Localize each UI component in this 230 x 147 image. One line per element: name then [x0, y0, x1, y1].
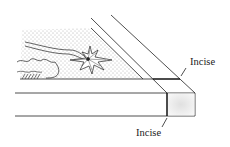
- painted-landscape: [17, 28, 143, 79]
- frame-end-face: [168, 94, 195, 116]
- diagram-drawing: [0, 0, 230, 147]
- incise-label-top: Incise: [190, 56, 215, 67]
- incise-label-bottom: Incise: [136, 127, 161, 138]
- frame-corner-diagram: Incise Incise: [0, 0, 230, 147]
